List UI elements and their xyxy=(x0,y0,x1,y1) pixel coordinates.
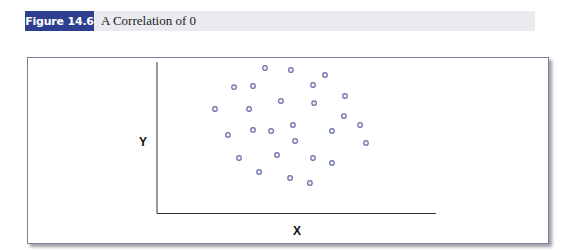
data-point xyxy=(232,85,237,90)
data-point xyxy=(293,139,298,144)
data-point xyxy=(257,170,262,175)
data-point xyxy=(323,73,328,78)
data-point xyxy=(288,176,293,181)
data-points xyxy=(213,66,369,186)
data-point xyxy=(279,99,284,104)
data-point xyxy=(330,129,335,134)
data-point xyxy=(343,94,348,99)
data-point xyxy=(269,129,274,134)
data-point xyxy=(291,123,296,128)
data-point xyxy=(251,84,256,89)
data-point xyxy=(311,83,316,88)
y-axis-label: Y xyxy=(139,135,147,149)
scatter-plot: Y X xyxy=(0,0,574,250)
data-point xyxy=(308,181,313,186)
data-point xyxy=(237,156,242,161)
data-point xyxy=(247,107,252,112)
data-point xyxy=(364,141,369,146)
data-point xyxy=(263,66,268,71)
data-point xyxy=(358,123,363,128)
x-axis-label: X xyxy=(293,224,301,238)
data-point xyxy=(275,153,280,158)
data-point xyxy=(330,161,335,166)
data-point xyxy=(342,114,347,119)
data-point xyxy=(289,68,294,73)
data-point xyxy=(213,107,218,112)
data-point xyxy=(251,128,256,133)
data-point xyxy=(226,133,231,138)
data-point xyxy=(311,156,316,161)
data-point xyxy=(312,101,317,106)
